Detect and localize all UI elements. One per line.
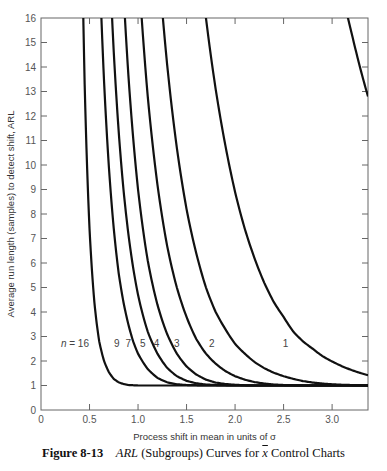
y-tick-label: 13	[25, 86, 37, 97]
curve-label: 9	[114, 338, 120, 349]
caption-middle: (Subgroups) Curves for	[138, 446, 262, 460]
x-tick-label: 3.0	[325, 414, 339, 425]
y-tick-label: 6	[30, 258, 36, 269]
y-tick-label: 10	[25, 160, 37, 171]
x-tick-label: 1.5	[180, 414, 194, 425]
y-tick-label: 8	[30, 209, 36, 220]
curve-label: 2	[209, 338, 215, 349]
x-tick-label: 0	[38, 414, 44, 425]
x-axis-title: Process shift in mean in units of σ	[133, 431, 276, 442]
y-tick-label: 3	[30, 331, 36, 342]
curve-label: 1	[283, 338, 289, 349]
figure-number: Figure 8-13	[42, 446, 103, 460]
arl-chart: 012345678910111213141516 00.51.01.52.02.…	[0, 0, 387, 446]
y-tick-label: 7	[30, 233, 36, 244]
curve-label: n = 16	[61, 338, 90, 349]
y-axis-title: Average run length (samples) to detect s…	[5, 111, 16, 318]
y-tick-label: 11	[26, 135, 37, 146]
y-tick-label: 14	[25, 62, 37, 73]
y-tick-label: 9	[30, 184, 36, 195]
caption-arl: ARL	[116, 446, 138, 460]
y-tick-label: 15	[25, 37, 37, 48]
y-axis: 012345678910111213141516	[25, 13, 368, 416]
curve-labels: n = 169754321	[61, 338, 289, 349]
y-tick-label: 0	[30, 405, 36, 416]
curve-label: 7	[126, 338, 132, 349]
arl-curve	[70, 0, 368, 386]
x-tick-label: 2.0	[228, 414, 242, 425]
y-tick-label: 2	[30, 356, 36, 367]
y-tick-label: 16	[25, 13, 37, 24]
x-tick-label: 0.5	[83, 414, 97, 425]
y-tick-label: 12	[25, 111, 37, 122]
curve-label: 3	[174, 338, 180, 349]
curve-label: 4	[154, 338, 160, 349]
y-tick-label: 4	[30, 307, 36, 318]
x-tick-label: 2.5	[277, 414, 291, 425]
x-tick-label: 1.0	[131, 414, 145, 425]
y-tick-label: 1	[30, 380, 36, 391]
figure-caption: Figure 8-13 ARL (Subgroups) Curves for x…	[0, 446, 387, 461]
caption-end: Control Charts	[268, 446, 345, 460]
curve-label: 5	[140, 338, 146, 349]
y-tick-label: 5	[30, 282, 36, 293]
arl-curves	[70, 0, 368, 386]
